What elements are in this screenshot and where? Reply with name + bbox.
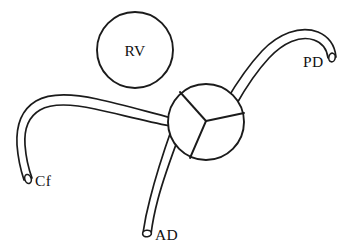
ad-tip-opening [142,230,152,238]
diagram-canvas: RV PD Cf AD [0,0,354,252]
vessel-diagram: RV PD Cf AD [0,0,354,252]
cf-tube [17,95,172,180]
label-rv: RV [125,42,146,59]
label-pd: PD [303,53,323,70]
label-cf: Cf [35,172,52,189]
label-ad: AD [155,226,178,243]
pd-tip-opening [328,53,336,63]
